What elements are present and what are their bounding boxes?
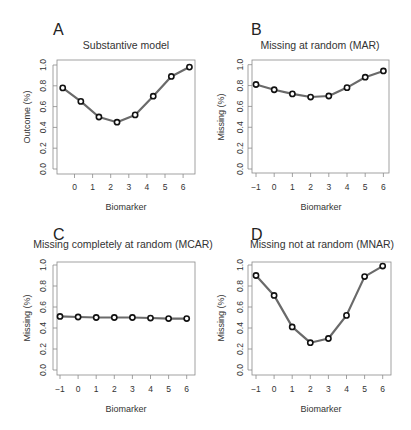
panel-b: B Missing at random (MAR) Missing (%) Bi… <box>216 21 389 212</box>
plot-area: 0.00.20.40.60.81.0−10123456 <box>38 259 195 394</box>
data-point <box>272 87 277 92</box>
x-tick-label: 6 <box>181 182 186 192</box>
y-tick-label: 0.0 <box>38 364 48 376</box>
y-tick-label: 0.2 <box>235 343 245 355</box>
y-tick-label: 0.8 <box>235 79 245 91</box>
x-tick-label: 4 <box>145 182 150 192</box>
x-tick-label: −1 <box>55 384 65 394</box>
x-tick-label: 0 <box>72 182 77 192</box>
y-tick-label: 0.8 <box>38 80 48 92</box>
data-point <box>253 273 258 278</box>
data-point <box>151 94 156 99</box>
data-point <box>166 316 171 321</box>
y-tick-label: 1.0 <box>235 259 245 271</box>
y-tick-label: 0.4 <box>38 322 48 334</box>
x-tick-label: 0 <box>272 182 277 192</box>
x-tick-label: −1 <box>251 384 261 394</box>
x-tick-label: 4 <box>344 384 349 394</box>
data-point <box>290 324 295 329</box>
y-tick-label: 0.4 <box>235 322 245 334</box>
panel-letter: A <box>53 21 64 38</box>
plot-frame <box>252 262 391 375</box>
x-tick-label: 1 <box>90 182 95 192</box>
y-tick-label: 0.4 <box>235 121 245 133</box>
y-tick-label: 0.0 <box>38 163 48 175</box>
x-axis-label: Biomarker <box>300 404 341 414</box>
panel-title: Missing not at random (MNAR) <box>250 238 394 250</box>
y-axis-label: Outcome (%) <box>22 90 32 143</box>
data-point <box>290 91 295 96</box>
x-axis-label: Biomarker <box>105 404 146 414</box>
y-tick-label: 0.2 <box>38 343 48 355</box>
data-point <box>76 314 81 319</box>
y-tick-label: 0.0 <box>235 163 245 175</box>
y-tick-label: 0.6 <box>235 100 245 112</box>
data-point <box>96 114 101 119</box>
data-point <box>308 340 313 345</box>
panel-title: Missing completely at random (MCAR) <box>33 238 213 250</box>
y-tick-label: 0.8 <box>235 280 245 292</box>
x-tick-label: 0 <box>76 384 81 394</box>
x-tick-label: 1 <box>290 182 295 192</box>
x-tick-label: −1 <box>251 182 261 192</box>
y-axis-label: Missing (%) <box>216 294 226 341</box>
data-point <box>272 293 277 298</box>
x-tick-label: 3 <box>326 384 331 394</box>
data-point <box>326 336 331 341</box>
x-tick-label: 1 <box>94 384 99 394</box>
x-tick-label: 6 <box>380 384 385 394</box>
plot-area: 0.00.20.40.60.81.0−10123456 <box>235 259 391 394</box>
x-tick-label: 3 <box>126 182 131 192</box>
data-point <box>60 85 65 90</box>
plot-area: 0.00.20.40.60.81.00123456 <box>38 59 195 192</box>
data-point <box>380 263 385 268</box>
panel-d: D Missing not at random (MNAR) Missing (… <box>216 226 394 414</box>
x-tick-label: 5 <box>163 182 168 192</box>
y-tick-label: 0.2 <box>38 142 48 154</box>
panel-c: C Missing completely at random (MCAR) Mi… <box>22 226 213 414</box>
panel-title: Substantive model <box>83 39 169 51</box>
x-axis-label: Biomarker <box>300 202 341 212</box>
plot-area: 0.00.20.40.60.81.0−10123456 <box>235 59 389 192</box>
x-tick-label: 0 <box>272 384 277 394</box>
x-tick-label: 2 <box>308 182 313 192</box>
panel-letter: B <box>251 21 262 38</box>
x-tick-label: 3 <box>326 182 331 192</box>
data-point <box>148 315 153 320</box>
y-axis-label: Missing (%) <box>216 93 226 140</box>
x-tick-label: 5 <box>166 384 171 394</box>
data-point <box>308 94 313 99</box>
x-tick-label: 5 <box>363 182 368 192</box>
x-tick-label: 4 <box>148 384 153 394</box>
y-tick-label: 1.0 <box>235 59 245 71</box>
y-tick-label: 0.8 <box>38 280 48 292</box>
data-point <box>381 68 386 73</box>
data-point <box>362 274 367 279</box>
data-point <box>184 316 189 321</box>
data-point <box>363 75 368 80</box>
x-tick-label: 3 <box>130 384 135 394</box>
x-tick-label: 2 <box>108 182 113 192</box>
x-tick-label: 2 <box>112 384 117 394</box>
panel-a: A Substantive model Outcome (%) Biomarke… <box>22 21 195 212</box>
data-point <box>114 120 119 125</box>
y-tick-label: 1.0 <box>38 259 48 271</box>
data-point <box>253 82 258 87</box>
data-point <box>112 315 117 320</box>
data-point <box>169 74 174 79</box>
data-point <box>130 315 135 320</box>
x-tick-label: 6 <box>381 182 386 192</box>
x-axis-label: Biomarker <box>105 202 146 212</box>
x-tick-label: 1 <box>290 384 295 394</box>
panel-title: Missing at random (MAR) <box>260 39 379 51</box>
data-point <box>326 93 331 98</box>
data-point <box>94 315 99 320</box>
x-tick-label: 6 <box>184 384 189 394</box>
y-tick-label: 0.0 <box>235 364 245 376</box>
x-tick-label: 4 <box>345 182 350 192</box>
data-point <box>57 314 62 319</box>
y-axis-label: Missing (%) <box>22 294 32 341</box>
y-tick-label: 1.0 <box>38 59 48 71</box>
figure: A Substantive model Outcome (%) Biomarke… <box>0 0 411 430</box>
data-point <box>187 64 192 69</box>
